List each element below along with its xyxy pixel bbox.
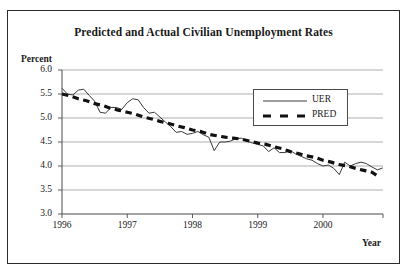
y-tick-label: 3.5 xyxy=(26,184,52,194)
legend-label-pred: PRED xyxy=(312,109,336,119)
y-tick-label: 5.5 xyxy=(26,88,52,98)
x-tick-label: 1998 xyxy=(172,220,212,230)
legend-label-uer: UER xyxy=(312,94,331,104)
legend-item-uer: UER xyxy=(254,94,349,108)
y-tick-label: 3.0 xyxy=(26,208,52,218)
chart-figure: Predicted and Actual Civilian Unemployme… xyxy=(0,0,409,274)
x-tick-label: 2000 xyxy=(303,220,343,230)
x-tick-label: 1996 xyxy=(42,220,82,230)
plot-area xyxy=(0,0,409,274)
y-tick-label: 4.0 xyxy=(26,160,52,170)
x-tick-label: 1999 xyxy=(238,220,278,230)
legend-item-pred: PRED xyxy=(254,109,349,123)
gridlines xyxy=(62,70,383,190)
y-tick-label: 6.0 xyxy=(26,64,52,74)
y-tick-label: 5.0 xyxy=(26,112,52,122)
x-tick-label: 1997 xyxy=(107,220,147,230)
legend-swatch-dashed-line xyxy=(262,110,308,122)
chart-legend: UER PRED xyxy=(253,89,348,126)
y-tick-label: 4.5 xyxy=(26,136,52,146)
legend-swatch-solid-line xyxy=(262,95,308,107)
